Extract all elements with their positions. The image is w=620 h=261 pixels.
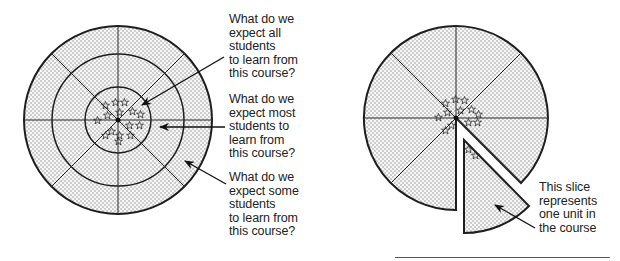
label-all-students: What do we expect all students to learn … — [229, 13, 298, 81]
diagram-canvas — [0, 0, 620, 261]
pie-diagram — [364, 26, 548, 233]
target-diagram — [24, 26, 226, 214]
label-some-students: What do we expect some students to learn… — [229, 171, 299, 239]
label-slice: This slice represents one unit in the co… — [539, 181, 597, 235]
label-most-students: What do we expect most students to learn… — [229, 93, 295, 161]
